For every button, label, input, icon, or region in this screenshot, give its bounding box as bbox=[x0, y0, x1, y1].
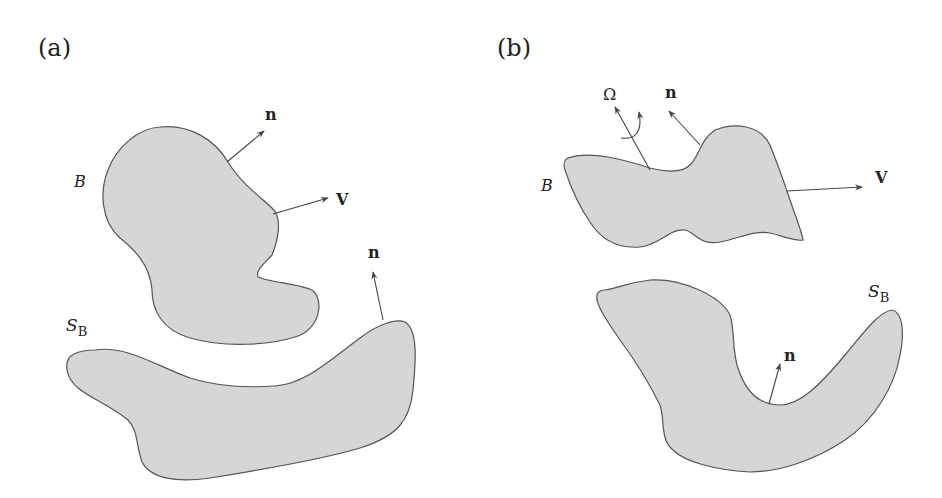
surface-sb-shape bbox=[597, 280, 903, 472]
panel-b: (b) B Ω n V SB n bbox=[497, 34, 902, 472]
panel-a-label: (a) bbox=[38, 34, 71, 62]
normal-label-body: n bbox=[265, 105, 277, 124]
normal-label-body: n bbox=[665, 83, 677, 102]
diagram-canvas: (a) B n V SB n (b) B Ω n V SB bbox=[0, 0, 942, 498]
body-b-label: B bbox=[540, 176, 553, 195]
panel-a: (a) B n V SB n bbox=[38, 34, 415, 480]
normal-arrow-body bbox=[227, 131, 264, 162]
velocity-arrow bbox=[273, 198, 328, 214]
normal-label-surface: n bbox=[784, 346, 796, 365]
normal-arrow-surface bbox=[769, 364, 780, 404]
angular-velocity-label: Ω bbox=[603, 85, 616, 104]
panel-b-label: (b) bbox=[497, 34, 531, 62]
normal-arrow-body bbox=[669, 111, 700, 145]
surface-sb-label: SB bbox=[868, 281, 889, 305]
body-b-shape bbox=[564, 126, 803, 247]
normal-label-surface: n bbox=[368, 243, 380, 262]
body-b-label: B bbox=[73, 172, 86, 191]
body-b-shape bbox=[103, 127, 319, 345]
velocity-label: V bbox=[874, 168, 888, 187]
surface-sb-label: SB bbox=[66, 315, 87, 339]
velocity-arrow bbox=[787, 187, 862, 191]
velocity-label: V bbox=[335, 190, 349, 209]
normal-arrow-surface bbox=[373, 272, 383, 320]
